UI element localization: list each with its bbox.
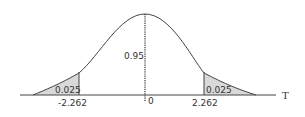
right-critical-label: 2.262 — [192, 98, 218, 108]
center-area-label: 0.95 — [124, 51, 144, 61]
left-tail-label: 0.025 — [55, 85, 81, 95]
right-tail-label: 0.025 — [206, 85, 232, 95]
t-distribution-chart: 0.95 0.025 0.025 -2.262 2.262 0 T — [0, 0, 305, 117]
left-critical-label: -2.262 — [58, 98, 87, 108]
x-axis-label: T — [282, 90, 289, 101]
center-tick-label: 0 — [148, 96, 154, 106]
